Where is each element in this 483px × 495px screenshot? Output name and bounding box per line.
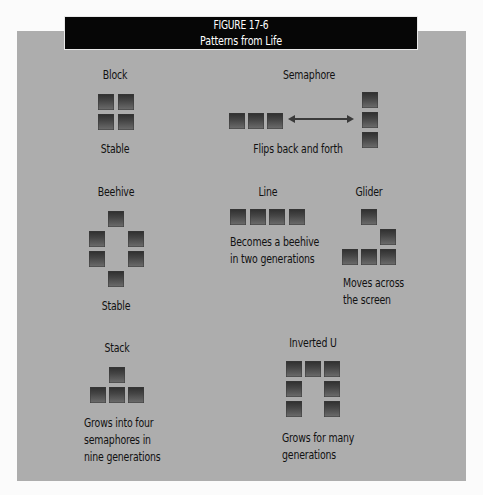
live-cell bbox=[109, 387, 125, 403]
glider-name: Glider bbox=[322, 184, 416, 201]
inverted-u-name: Inverted U bbox=[266, 335, 360, 352]
live-cell bbox=[250, 209, 266, 225]
live-cell bbox=[230, 209, 246, 225]
live-cell bbox=[118, 94, 134, 110]
live-cell bbox=[128, 231, 144, 247]
live-cell bbox=[286, 361, 302, 377]
live-cell bbox=[229, 113, 245, 129]
beehive-description: Stable bbox=[69, 298, 163, 315]
live-cell bbox=[248, 113, 264, 129]
live-cell bbox=[361, 249, 377, 265]
live-cell bbox=[128, 387, 144, 403]
double-arrow-icon bbox=[292, 118, 350, 120]
figure-number: FIGURE 17-6 bbox=[91, 18, 390, 32]
live-cell bbox=[118, 114, 134, 130]
block-name: Block bbox=[68, 67, 162, 84]
live-cell bbox=[342, 249, 358, 265]
beehive-name: Beehive bbox=[69, 184, 163, 201]
live-cell bbox=[362, 132, 378, 148]
live-cell bbox=[269, 209, 285, 225]
live-cell bbox=[128, 251, 144, 267]
live-cell bbox=[289, 209, 305, 225]
line-description-2: in two generations bbox=[230, 251, 315, 268]
live-cell bbox=[362, 112, 378, 128]
live-cell bbox=[380, 249, 396, 265]
live-cell bbox=[286, 381, 302, 397]
live-cell bbox=[324, 381, 340, 397]
stack-description-3: nine generations bbox=[84, 449, 160, 466]
glider-description-1: Moves across bbox=[343, 275, 404, 292]
live-cell bbox=[324, 361, 340, 377]
live-cell bbox=[361, 209, 377, 225]
stack-description-1: Grows into four bbox=[84, 415, 154, 432]
live-cell bbox=[286, 401, 302, 417]
live-cell bbox=[89, 231, 105, 247]
live-cell bbox=[108, 211, 124, 227]
live-cell bbox=[267, 113, 283, 129]
inverted-u-description-1: Grows for many bbox=[282, 430, 354, 447]
live-cell bbox=[108, 271, 124, 287]
figure-title-bar: FIGURE 17-6 Patterns from Life bbox=[64, 16, 418, 50]
glider-description-2: the screen bbox=[343, 292, 391, 309]
figure-title: Patterns from Life bbox=[91, 33, 390, 48]
stack-name: Stack bbox=[70, 340, 164, 357]
live-cell bbox=[98, 114, 114, 130]
inverted-u-description-2: generations bbox=[282, 447, 336, 464]
block-description: Stable bbox=[68, 141, 162, 158]
line-name: Line bbox=[221, 184, 315, 201]
live-cell bbox=[98, 94, 114, 110]
live-cell bbox=[380, 229, 396, 245]
line-description-1: Becomes a beehive bbox=[230, 234, 319, 251]
live-cell bbox=[109, 367, 125, 383]
semaphore-description: Flips back and forth bbox=[251, 141, 345, 158]
live-cell bbox=[89, 251, 105, 267]
semaphore-name: Semaphore bbox=[262, 67, 356, 84]
live-cell bbox=[362, 92, 378, 108]
stack-description-2: semaphores in bbox=[84, 432, 151, 449]
live-cell bbox=[324, 401, 340, 417]
live-cell bbox=[305, 361, 321, 377]
live-cell bbox=[90, 387, 106, 403]
